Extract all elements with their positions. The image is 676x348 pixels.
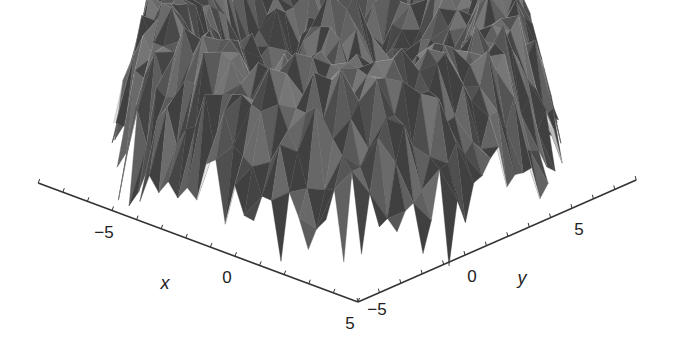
x-tick-label: −5: [94, 223, 113, 243]
surface-plot: [0, 0, 676, 348]
x-tick-label: 5: [345, 314, 354, 334]
y-tick-label: 0: [467, 267, 476, 287]
y-tick-label: 5: [574, 220, 583, 240]
y-axis-label: y: [518, 268, 527, 289]
surface-mesh: [112, 0, 562, 266]
y-tick-label: −5: [367, 300, 386, 320]
x-tick-label: 0: [222, 268, 231, 288]
x-axis-label: x: [161, 273, 170, 294]
